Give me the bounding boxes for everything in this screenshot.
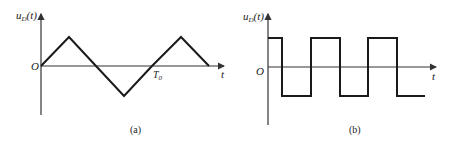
origin-label-a: O	[31, 60, 39, 72]
period-label: T0	[153, 69, 163, 82]
figure-b: uD(t) O t (b)	[243, 10, 436, 136]
figure-canvas: uD(t) O T0 t (a) uD(t) O t (b)	[0, 0, 451, 146]
y-axis-label-a: uD(t)	[16, 9, 37, 23]
origin-label-b: O	[256, 65, 264, 77]
caption-a: (a)	[130, 124, 141, 136]
y-axis-label-b: uD(t)	[243, 10, 264, 24]
caption-b: (b)	[349, 124, 361, 136]
x-axis-label-b: t	[432, 70, 436, 82]
x-axis-label-a: t	[221, 68, 225, 80]
figure-a: uD(t) O T0 t (a)	[16, 9, 225, 136]
